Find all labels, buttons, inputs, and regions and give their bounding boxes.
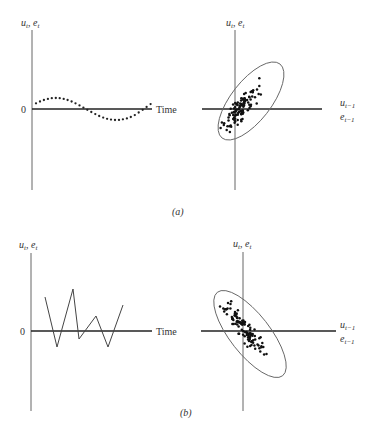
y-axis-label: ut, et <box>19 239 38 252</box>
x-axis-label-e: et−1 <box>340 333 355 346</box>
panel-b-scatter-plot: ut, et ut−1 et−1 <box>201 238 355 411</box>
x-axis-label-u: ut−1 <box>340 97 355 110</box>
panel-b-time-plot: ut, et 0 Time <box>19 239 177 411</box>
time-label: Time <box>156 104 177 115</box>
x-axis-label-u: ut−1 <box>340 319 355 332</box>
time-label: Time <box>156 326 177 337</box>
zero-label: 0 <box>21 104 26 115</box>
panel-a-time-plot: ut, et 0 Time <box>21 17 177 190</box>
panel-a-scatter-plot: ut, et ut−1 et−1 <box>202 17 355 190</box>
zero-label: 0 <box>20 326 25 337</box>
y-axis-label: ut, et <box>226 17 245 30</box>
confidence-ellipse <box>206 52 295 151</box>
y-axis-label: ut, et <box>21 17 40 30</box>
autocorrelation-figure: ut, et 0 Time ut, et ut−1 et−1 (a) ut, e… <box>0 0 370 443</box>
caption-b: (b) <box>180 407 192 419</box>
y-axis-label: ut, et <box>233 238 252 251</box>
x-axis-label-e: et−1 <box>340 111 355 124</box>
scatter-points <box>219 77 262 133</box>
caption-a: (a) <box>172 206 184 218</box>
zigzag-series <box>45 289 123 347</box>
